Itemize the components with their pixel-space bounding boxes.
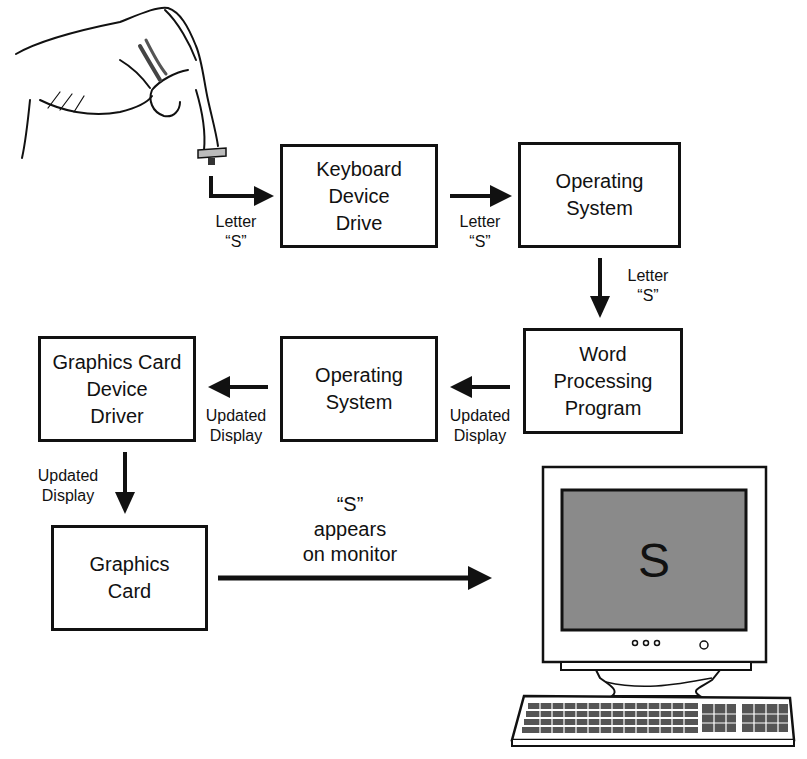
arrow-os-to-word-processor <box>590 258 610 318</box>
node-label: Operating System <box>556 168 644 222</box>
arrow-word-processor-to-os <box>450 376 510 398</box>
edge-label-key-to-keyboard-driver: Letter “S” <box>206 212 266 252</box>
arrow-os-to-graphics-driver <box>208 376 268 398</box>
edge-label-graphics-driver-to-card: Updated Display <box>28 466 108 506</box>
node-graphics-card: Graphics Card <box>51 525 208 631</box>
keyboard-icon <box>512 696 794 746</box>
node-operating-system-2: Operating System <box>280 336 438 442</box>
node-label: Graphics Card Device Driver <box>53 349 182 430</box>
node-label: Graphics Card <box>89 551 169 605</box>
edge-label-keyboard-driver-to-os: Letter “S” <box>450 212 510 252</box>
arrow-keyboard-driver-to-os <box>450 185 512 207</box>
arrow-graphics-driver-to-graphics-card <box>115 452 135 514</box>
node-graphics-card-device-driver: Graphics Card Device Driver <box>38 336 196 442</box>
edge-label-os-to-word-processor: Letter “S” <box>618 266 678 306</box>
hand-pressing-key-icon <box>16 8 218 158</box>
node-label: Word Processing Program <box>554 341 653 422</box>
node-operating-system-1: Operating System <box>518 142 681 248</box>
node-word-processing-program: Word Processing Program <box>523 328 683 434</box>
key-icon <box>198 148 226 165</box>
node-keyboard-device-drive: Keyboard Device Drive <box>280 144 438 248</box>
edge-label-os-to-graphics-driver: Updated Display <box>196 406 276 446</box>
node-label: Keyboard Device Drive <box>316 156 402 237</box>
monitor-screen-text: S <box>562 490 746 630</box>
node-label: Operating System <box>315 362 403 416</box>
arrow-key-to-keyboard-driver <box>211 176 274 206</box>
edge-label-card-to-monitor: “S” appears on monitor <box>280 492 420 567</box>
arrow-graphics-card-to-monitor <box>218 566 492 590</box>
edge-label-word-processor-to-os: Updated Display <box>440 406 520 446</box>
